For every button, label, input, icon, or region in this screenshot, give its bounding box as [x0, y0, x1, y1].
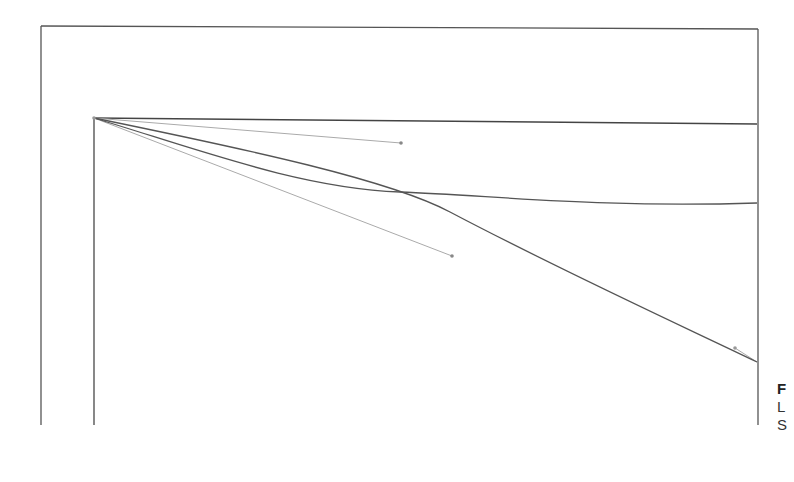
control-point-2[interactable]	[450, 254, 454, 258]
steep-curve	[94, 118, 757, 362]
figure-caption: F L S	[777, 380, 794, 434]
origin-point[interactable]	[92, 116, 96, 120]
horizontal-axis	[94, 118, 757, 124]
flattening-curve	[94, 118, 757, 204]
caption-line-1: L	[777, 398, 794, 416]
control-point-1[interactable]	[399, 141, 403, 145]
control-point-3[interactable]	[733, 346, 737, 350]
diagram-canvas	[0, 0, 794, 482]
control-handle-2[interactable]	[94, 118, 452, 256]
caption-line-2: S	[777, 416, 794, 434]
frame-top	[41, 26, 758, 29]
caption-title: F	[777, 380, 794, 398]
control-handle-1[interactable]	[94, 118, 401, 143]
